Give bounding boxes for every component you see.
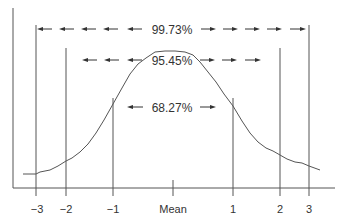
normal-distribution-diagram: 99.73% 95.45% 68.27% −3 −2 −1 Mean 1 2 3 [0, 0, 343, 224]
tick-label-plus2: 2 [277, 203, 283, 215]
tick-label-mean: Mean [159, 203, 187, 215]
tick-label-plus1: 1 [230, 203, 236, 215]
tick-label-minus3: −3 [31, 203, 44, 215]
tick-label-minus1: −1 [107, 203, 120, 215]
tick-label-minus2: −2 [60, 203, 73, 215]
range-2sigma-label: 95.45% [152, 54, 193, 68]
range-3sigma-label: 99.73% [152, 23, 193, 37]
range-1sigma-label: 68.27% [152, 101, 193, 115]
tick-label-plus3: 3 [306, 203, 312, 215]
